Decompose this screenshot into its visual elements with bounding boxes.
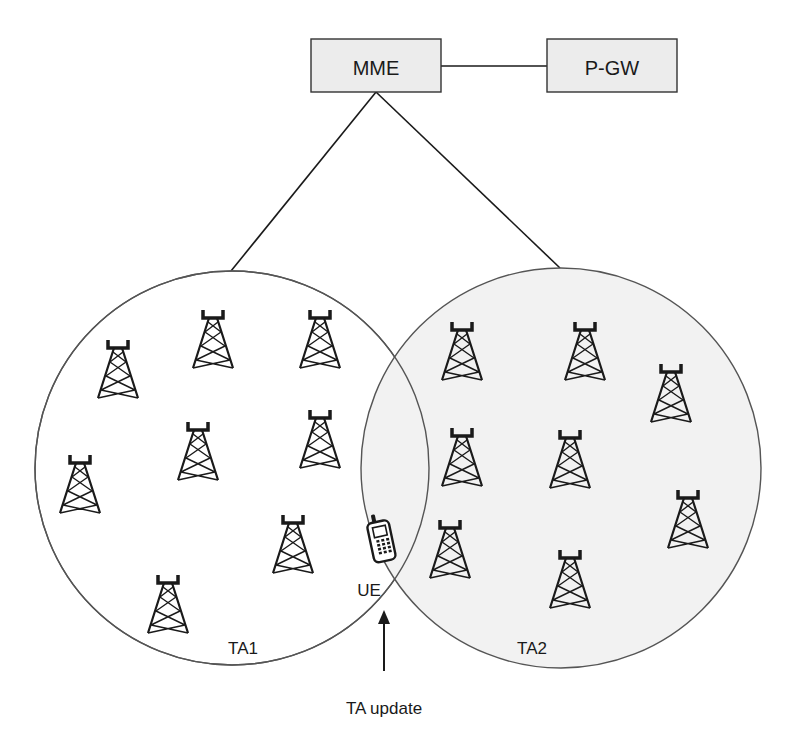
ta-update-label: TA update [346,699,422,718]
mme-node[interactable]: MME [311,39,441,92]
ta2-label: TA2 [517,639,547,658]
pgw-node[interactable]: P-GW [547,39,677,92]
diagram-canvas: MME P-GW UE [0,0,790,746]
ta1-label: TA1 [228,639,258,658]
mme-label: MME [353,57,400,79]
pgw-label: P-GW [585,57,640,79]
mme-ta2-link [376,92,560,268]
ta-update-arrow [378,610,390,671]
ue-label: UE [357,581,381,600]
mme-ta1-link [231,92,376,271]
